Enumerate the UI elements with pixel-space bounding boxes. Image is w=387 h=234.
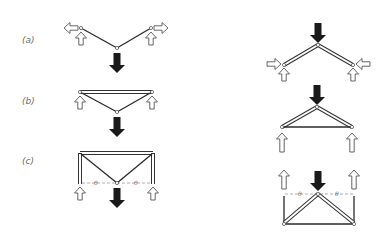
angle-theta-right: θ bbox=[134, 179, 138, 186]
vertical-reaction-left-icon bbox=[277, 133, 288, 152]
node-bottom bbox=[115, 110, 118, 113]
vertical-reaction-left-icon bbox=[75, 96, 86, 109]
node-left bbox=[282, 63, 285, 66]
vertical-reaction-left-icon bbox=[76, 32, 87, 45]
load-arrow-icon bbox=[109, 117, 125, 137]
node-right bbox=[350, 125, 353, 128]
node-left bbox=[280, 125, 283, 128]
load-arrow-icon bbox=[109, 53, 125, 73]
diagram-c-frame: (c) θ θ bbox=[22, 153, 159, 208]
structural-diagram: (a) (b) (c) bbox=[0, 0, 387, 234]
vertical-reaction-right-icon bbox=[348, 68, 359, 81]
node-bottom bbox=[115, 46, 118, 49]
horizontal-reaction-right-icon bbox=[356, 59, 370, 70]
node-apex bbox=[315, 105, 318, 108]
diagram-c-hung-arch: θ θ bbox=[279, 170, 360, 226]
angle-theta-left: θ bbox=[298, 190, 302, 197]
vertical-reaction-right-icon bbox=[147, 96, 158, 109]
horizontal-reaction-right-icon bbox=[154, 23, 168, 34]
node-left bbox=[282, 222, 285, 225]
diagram-b-strut: (b) bbox=[22, 90, 158, 137]
horizontal-reaction-left-icon bbox=[267, 59, 281, 70]
angle-theta-right: θ bbox=[335, 190, 339, 197]
label-b: (b) bbox=[22, 96, 35, 106]
node-right bbox=[352, 222, 355, 225]
vertical-reaction-right-icon bbox=[349, 170, 360, 189]
vertical-reaction-left-icon bbox=[279, 170, 290, 189]
node-right bbox=[351, 63, 354, 66]
vertical-reaction-right-icon bbox=[146, 32, 157, 45]
cable-left-member bbox=[81, 154, 117, 183]
vertical-reaction-right-icon bbox=[148, 187, 159, 200]
horizontal-reaction-left-icon bbox=[64, 23, 78, 34]
vertical-reaction-left-icon bbox=[279, 68, 290, 81]
node-apex bbox=[316, 43, 319, 46]
node-left bbox=[78, 90, 81, 93]
load-arrow-icon bbox=[310, 171, 326, 191]
load-arrow-icon bbox=[310, 23, 326, 43]
load-arrow-icon bbox=[109, 188, 125, 208]
node-right bbox=[150, 90, 153, 93]
node-left bbox=[79, 26, 82, 29]
load-arrow-icon bbox=[309, 85, 325, 105]
diagram-b-tied-arch bbox=[277, 85, 358, 152]
vertical-reaction-right-icon bbox=[347, 133, 358, 152]
node-apex bbox=[316, 192, 319, 195]
diagram-a-cable: (a) bbox=[22, 23, 168, 74]
diagram-a-arch bbox=[267, 23, 370, 81]
label-c: (c) bbox=[22, 156, 34, 166]
node-bottom bbox=[115, 181, 118, 184]
vertical-reaction-left-icon bbox=[75, 187, 86, 200]
node-right bbox=[149, 26, 152, 29]
angle-theta-left: θ bbox=[94, 179, 98, 186]
label-a: (a) bbox=[22, 35, 35, 45]
